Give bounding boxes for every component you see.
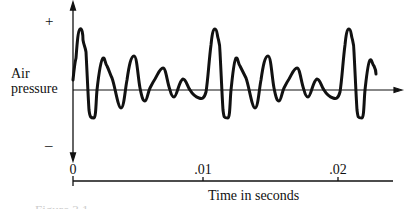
figure-caption: Figure 3.1 bbox=[35, 202, 88, 209]
axis-arrow-down-icon bbox=[71, 153, 76, 161]
waveform-chart bbox=[0, 0, 407, 209]
axis-arrow-up-icon bbox=[71, 2, 76, 10]
negative-pressure-marker: – bbox=[45, 138, 53, 153]
time-tick-label-01: .01 bbox=[194, 163, 212, 177]
axis-arrow-right-icon bbox=[394, 88, 402, 93]
y-axis-label-line2: pressure bbox=[11, 81, 58, 96]
y-axis-label-line1: Air bbox=[11, 66, 30, 81]
pressure-waveform bbox=[73, 29, 376, 118]
time-tick-label-02: .02 bbox=[329, 163, 347, 177]
pressure-axis bbox=[71, 2, 76, 161]
time-axis bbox=[73, 176, 393, 186]
x-axis-label: Time in seconds bbox=[208, 188, 299, 203]
positive-pressure-marker: + bbox=[45, 14, 53, 29]
time-tick-label-0: 0 bbox=[70, 163, 77, 177]
zero-line bbox=[73, 88, 402, 93]
